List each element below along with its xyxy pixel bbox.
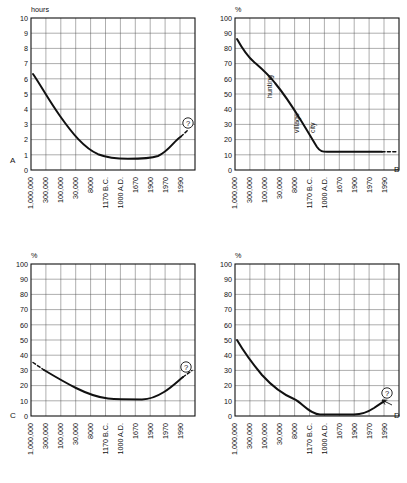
x-tick-d-1: 300,000: [245, 423, 254, 449]
x-tick-a-2: 100,000: [56, 177, 65, 203]
y-tick-c-70: 70: [20, 305, 28, 314]
y-tick-c-40: 40: [20, 351, 28, 360]
unknown-marker-a: ?: [183, 118, 193, 128]
y-tick-c-50: 50: [20, 336, 28, 345]
x-tick-b-5: 1170 B.C.: [305, 177, 314, 208]
y-axis-unit-label-a: hours: [31, 5, 49, 14]
y-tick-d-20: 20: [224, 381, 232, 390]
y-tick-b-0: 0: [228, 166, 232, 175]
y-tick-c-30: 30: [20, 366, 28, 375]
x-tick-a-6: 1000 A.D.: [116, 177, 125, 209]
x-tick-c-8: 1900: [146, 423, 155, 439]
y-tick-b-50: 50: [224, 90, 232, 99]
x-tick-d-0: 1,000,000: [230, 423, 239, 455]
y-tick-d-90: 90: [224, 275, 232, 284]
chart-panel-b: % 100 90 80 70 60 50 40 30 20 10 0 B hun…: [204, 0, 407, 241]
y-tick-a-7: 7: [24, 59, 28, 68]
data-curve-c-early-projection: [33, 363, 44, 371]
figure-sheet: hours 10 9 8 7 6 5 4 3 2 1 0 A ?: [0, 0, 407, 483]
y-tick-d-80: 80: [224, 290, 232, 299]
unknown-marker-a-label: ?: [186, 119, 190, 128]
y-tick-a-5: 5: [24, 90, 28, 99]
x-tick-a-9: 1970: [161, 177, 170, 193]
gridlines-d: [235, 264, 399, 416]
x-tick-a-0: 1,000,000: [26, 177, 35, 209]
y-tick-a-10: 10: [20, 14, 28, 23]
y-tick-a-4: 4: [24, 105, 28, 114]
y-tick-a-3: 3: [24, 120, 28, 129]
y-tick-b-100: 100: [220, 14, 232, 23]
annotation-village: village: [293, 113, 301, 133]
x-tick-d-10: 1990: [380, 423, 389, 439]
y-tick-a-0: 0: [24, 166, 28, 175]
y-tick-d-0: 0: [228, 412, 232, 421]
y-ticks-d: 100 90 80 70 60 50 40 30 20 10 0: [220, 260, 232, 421]
x-ticks-b: 1,000,000 300,000 100,000 30,000 8000 11…: [230, 177, 389, 209]
unknown-marker-c: ?: [181, 362, 191, 372]
x-tick-c-6: 1000 A.D.: [116, 423, 125, 455]
x-tick-a-3: 30,000: [71, 177, 80, 199]
x-tick-c-10: 1990: [176, 423, 185, 439]
chart-panel-c: % 100 90 80 70 60 50 40 30 20 10 0 C: [0, 242, 203, 483]
chart-panel-a: hours 10 9 8 7 6 5 4 3 2 1 0 A ?: [0, 0, 203, 241]
y-axis-unit-label-d: %: [235, 251, 242, 260]
y-tick-c-10: 10: [20, 397, 28, 406]
y-tick-b-40: 40: [224, 105, 232, 114]
y-tick-a-2: 2: [24, 135, 28, 144]
y-tick-b-80: 80: [224, 44, 232, 53]
x-tick-c-7: 1670: [131, 423, 140, 439]
y-tick-c-90: 90: [20, 275, 28, 284]
unknown-marker-d-label: ?: [385, 389, 389, 398]
x-tick-b-1: 300,000: [245, 177, 254, 203]
panel-letter-a: A: [10, 156, 16, 165]
x-tick-c-5: 1170 B.C.: [101, 423, 110, 454]
x-tick-a-5: 1170 B.C.: [101, 177, 110, 208]
y-tick-c-100: 100: [16, 260, 28, 269]
chart-panel-d: % 100 90 80 70 60 50 40 30 20 10 0 D ?: [204, 242, 407, 483]
x-tick-c-1: 300,000: [41, 423, 50, 449]
y-tick-c-20: 20: [20, 381, 28, 390]
x-tick-d-3: 30,000: [275, 423, 284, 445]
x-tick-b-0: 1,000,000: [230, 177, 239, 209]
y-axis-unit-label-b: %: [235, 5, 242, 14]
annotation-hunting: hunting: [266, 75, 274, 98]
x-tick-c-9: 1970: [161, 423, 170, 439]
y-tick-c-0: 0: [24, 412, 28, 421]
data-curve-d: [237, 340, 385, 414]
y-tick-d-70: 70: [224, 305, 232, 314]
y-tick-a-8: 8: [24, 44, 28, 53]
x-tick-b-6: 1000 A.D.: [320, 177, 329, 209]
x-tick-b-10: 1990: [380, 177, 389, 193]
x-tick-c-0: 1,000,000: [26, 423, 35, 455]
y-tick-d-40: 40: [224, 351, 232, 360]
x-tick-d-6: 1000 A.D.: [320, 423, 329, 455]
y-ticks-a: 10 9 8 7 6 5 4 3 2 1 0: [20, 14, 28, 175]
panel-letter-b: B: [394, 165, 399, 174]
y-tick-c-80: 80: [20, 290, 28, 299]
data-curve-a: [33, 74, 181, 159]
gridlines-c: [31, 264, 195, 416]
x-tick-a-4: 8000: [86, 177, 95, 193]
y-tick-d-100: 100: [220, 260, 232, 269]
x-tick-d-4: 8000: [290, 423, 299, 439]
y-ticks-c: 100 90 80 70 60 50 40 30 20 10 0: [16, 260, 28, 421]
x-tick-d-9: 1970: [365, 423, 374, 439]
x-tick-d-2: 100,000: [260, 423, 269, 449]
x-ticks-a: 1,000,000 300,000 100,000 30,000 8000 11…: [26, 177, 185, 209]
x-tick-d-7: 1670: [335, 423, 344, 439]
x-tick-b-9: 1970: [365, 177, 374, 193]
x-tick-c-4: 8000: [86, 423, 95, 439]
panel-letter-d: D: [394, 411, 400, 420]
x-tick-a-1: 300,000: [41, 177, 50, 203]
y-ticks-b: 100 90 80 70 60 50 40 30 20 10 0: [220, 14, 232, 175]
y-axis-unit-label-c: %: [31, 251, 38, 260]
x-tick-c-3: 30,000: [71, 423, 80, 445]
x-ticks-d: 1,000,000 300,000 100,000 30,000 8000 11…: [230, 423, 389, 455]
x-tick-b-4: 8000: [290, 177, 299, 193]
y-tick-a-9: 9: [24, 29, 28, 38]
x-tick-c-2: 100,000: [56, 423, 65, 449]
y-tick-a-6: 6: [24, 75, 28, 84]
x-tick-d-5: 1170 B.C.: [305, 423, 314, 454]
x-tick-a-10: 1990: [176, 177, 185, 193]
x-tick-a-7: 1670: [131, 177, 140, 193]
